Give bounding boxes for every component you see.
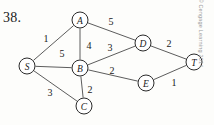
nodes-group: SABCDET	[19, 12, 202, 114]
graph-node-b: B	[72, 60, 88, 76]
node-label-c: C	[81, 102, 88, 112]
copyright-notice: © Cengage Learning 2014	[198, 0, 204, 72]
graph-node-c: C	[76, 98, 92, 114]
graph-edge-s-b	[35, 66, 71, 67]
graph-node-a: A	[72, 12, 88, 28]
edge-weight-d-t: 2	[167, 38, 172, 49]
edge-weight-s-a: 1	[44, 33, 49, 44]
edge-weight-s-b: 5	[60, 48, 65, 59]
graph-diagram: 1534523221 SABCDET	[0, 0, 214, 125]
node-label-d: D	[139, 39, 147, 49]
edge-weight-e-t: 1	[172, 77, 177, 88]
edges-group	[33, 23, 186, 101]
edge-weight-a-b: 4	[87, 40, 92, 51]
edge-weight-s-c: 3	[48, 87, 53, 98]
edge-weight-b-d: 3	[108, 42, 113, 53]
graph-edge-e-t	[154, 65, 186, 79]
node-label-a: A	[76, 16, 83, 26]
figure-page: · · · · · · · · · · · 38. 1534523221 SAB…	[0, 0, 214, 125]
graph-edge-b-c	[81, 76, 83, 97]
node-label-b: B	[77, 64, 83, 74]
graph-edge-s-c	[34, 71, 77, 101]
node-label-t: T	[191, 58, 197, 68]
edge-weight-b-e: 2	[110, 65, 115, 76]
edge-weight-a-d: 5	[109, 16, 114, 27]
graph-node-d: D	[135, 35, 151, 51]
graph-node-s: S	[19, 58, 35, 74]
graph-node-e: E	[138, 75, 154, 91]
node-label-e: E	[142, 79, 149, 89]
graph-edge-s-a	[33, 26, 73, 61]
node-label-s: S	[25, 62, 30, 72]
edge-weight-b-c: 2	[88, 84, 93, 95]
